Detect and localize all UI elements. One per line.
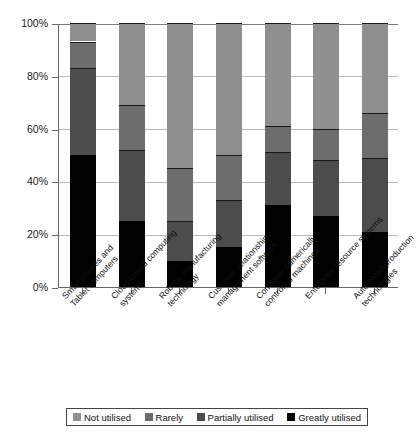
y-axis-tick-label: 40% <box>27 175 48 187</box>
legend-item-label: Partially utilised <box>208 412 274 423</box>
bar-column[interactable] <box>362 23 388 287</box>
bar-segment-not-utilised[interactable] <box>167 23 193 168</box>
bar-segment-rarely[interactable] <box>167 168 193 221</box>
y-axis-tick-label: 20% <box>27 228 48 240</box>
chart-legend: Not utilisedRarelyPartially utilisedGrea… <box>66 408 368 426</box>
partially-utilised-swatch <box>197 413 205 421</box>
bar-segment-rarely[interactable] <box>119 105 145 150</box>
rarely-swatch <box>145 413 153 421</box>
legend-item[interactable]: Rarely <box>145 412 183 423</box>
greatly-utilised-swatch <box>287 413 295 421</box>
legend-item-label: Rarely <box>156 412 183 423</box>
bar-segment-rarely[interactable] <box>265 126 291 152</box>
legend-item-label: Not utilised <box>84 412 131 423</box>
bar-segment-rarely[interactable] <box>70 42 96 68</box>
bar-segment-not-utilised[interactable] <box>119 23 145 105</box>
y-axis-tick-label: 100% <box>21 17 48 29</box>
y-axis: 0%20%40%60%80%100% <box>0 24 58 288</box>
bar-segment-not-utilised[interactable] <box>362 23 388 113</box>
bar-segment-not-utilised[interactable] <box>265 23 291 126</box>
bar-segment-partially-utilised[interactable] <box>265 152 291 205</box>
x-axis-category-labels: Smart phones andTablet computersCloud-ba… <box>0 292 410 388</box>
legend-item[interactable]: Greatly utilised <box>287 412 361 423</box>
bar-column[interactable] <box>119 23 145 287</box>
bar-column[interactable] <box>70 23 96 287</box>
legend-item[interactable]: Partially utilised <box>197 412 274 423</box>
not-utilised-swatch <box>73 413 81 421</box>
bar-segment-not-utilised[interactable] <box>70 23 96 41</box>
legend-item-label: Greatly utilised <box>298 412 361 423</box>
bar-segment-rarely[interactable] <box>362 113 388 158</box>
bar-segment-partially-utilised[interactable] <box>70 68 96 155</box>
bar-segment-not-utilised[interactable] <box>313 23 339 129</box>
legend-item[interactable]: Not utilised <box>73 412 131 423</box>
bar-segment-rarely[interactable] <box>313 129 339 161</box>
bar-segment-partially-utilised[interactable] <box>119 150 145 221</box>
bar-segment-rarely[interactable] <box>216 155 242 200</box>
bar-segment-not-utilised[interactable] <box>216 23 242 155</box>
bar-segment-partially-utilised[interactable] <box>313 160 339 215</box>
y-axis-tick-label: 80% <box>27 70 48 82</box>
y-axis-tick-label: 60% <box>27 123 48 135</box>
